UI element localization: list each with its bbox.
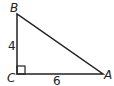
side-label-ca: 6 [53, 74, 61, 86]
right-angle-marker [17, 66, 25, 74]
triangle-shape [17, 14, 103, 74]
triangle-diagram: B C A 4 6 [0, 0, 114, 86]
vertex-label-b: B [10, 1, 18, 15]
vertex-label-c: C [7, 71, 16, 85]
side-label-bc: 4 [8, 39, 16, 53]
vertex-label-a: A [103, 68, 112, 82]
